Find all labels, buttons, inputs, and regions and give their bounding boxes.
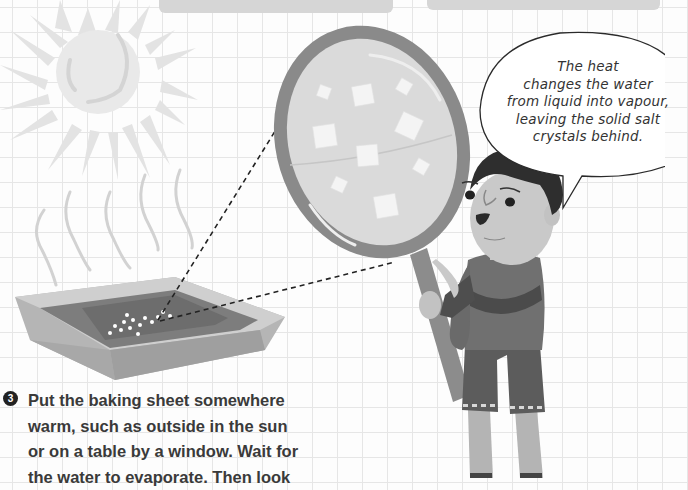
bubble-line: from liquid into vapour, — [488, 93, 688, 111]
step-line: or on a table by a window. Wait for — [28, 439, 328, 465]
step-line: Put the baking sheet somewhere — [28, 388, 328, 414]
bubble-line: leaving the solid salt — [488, 111, 688, 129]
bubble-line: crystals behind. — [488, 128, 688, 146]
speech-bubble-text: The heat changes the water from liquid i… — [488, 58, 688, 146]
step-line: warm, such as outside in the sun — [28, 414, 328, 440]
bubble-line: changes the water — [488, 76, 688, 94]
baking-sheet — [15, 277, 285, 380]
bubble-line: The heat — [488, 58, 688, 76]
step-text: Put the baking sheet somewhere warm, suc… — [28, 388, 328, 490]
heat-wave-icon — [36, 170, 192, 285]
step-line: the water to evaporate. Then look — [28, 465, 328, 490]
sun-icon — [0, 0, 198, 180]
step-number-badge: 3 — [3, 391, 18, 406]
